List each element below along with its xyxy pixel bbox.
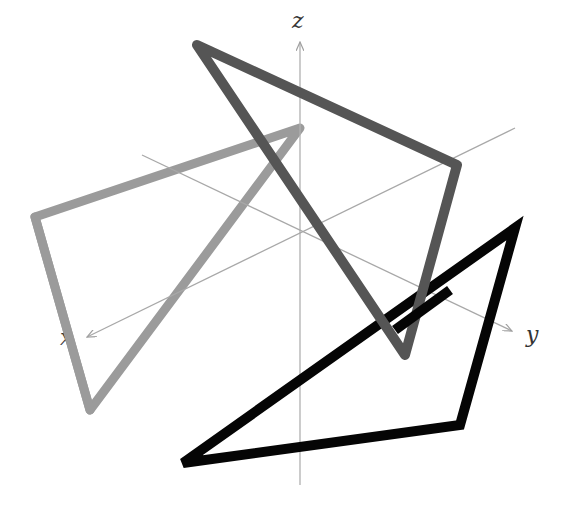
light-gray-triangle-edge-cover	[35, 217, 90, 410]
y-axis-label: y	[525, 322, 539, 347]
figure-canvas: z y x	[0, 0, 582, 513]
z-axis-label: z	[291, 8, 304, 33]
triangles-3d-figure: z y x	[0, 0, 582, 513]
